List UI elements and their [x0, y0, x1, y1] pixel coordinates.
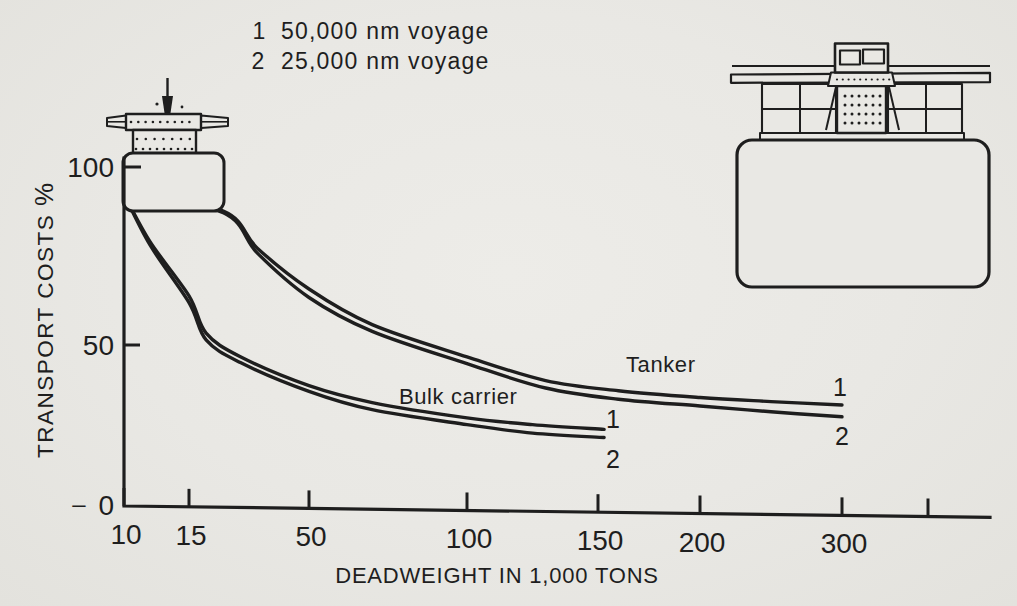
porthole-dot: [879, 104, 882, 107]
tanker-end-label-1: 1: [833, 373, 847, 401]
porthole-dot: [858, 95, 861, 98]
x-tick-label: 10: [110, 519, 141, 550]
porthole-dot: [162, 138, 165, 141]
porthole-dot: [865, 78, 867, 80]
x-tick-label: 300: [821, 528, 868, 559]
chart-canvas: 101550100150200300 100500 1 50,000 nm vo…: [0, 0, 1017, 606]
tanker-curve-label: Tanker: [626, 352, 696, 377]
porthole-dot: [844, 113, 847, 116]
porthole-dot: [171, 138, 174, 141]
porthole-dot: [149, 148, 152, 151]
large-ship-illustration: [731, 44, 990, 288]
x-tick-label: 200: [679, 527, 726, 558]
x-tick-label: 100: [446, 523, 493, 554]
porthole-dot: [851, 122, 854, 125]
porthole-dot: [159, 121, 162, 124]
large-ship-hull: [737, 140, 989, 287]
porthole-dot: [865, 95, 868, 98]
porthole-dot: [851, 104, 854, 107]
x-axis-ticks: 101550100150200300: [110, 488, 928, 559]
curve-bulk-50000nm: [124, 194, 604, 429]
porthole-dot: [142, 148, 145, 151]
porthole-dot: [879, 113, 882, 116]
porthole-dot: [865, 122, 868, 125]
porthole-dot: [844, 122, 847, 125]
porthole-dot: [888, 78, 890, 80]
porthole-dot: [156, 148, 159, 151]
small-ship-mast-dot-right: [181, 106, 184, 109]
small-ship-hull: [123, 153, 224, 211]
porthole-dot: [163, 148, 166, 151]
porthole-dot: [184, 148, 187, 151]
curve-tanker-25000nm: [124, 191, 842, 417]
porthole-dot: [144, 121, 147, 124]
y-tick-label: 0: [98, 490, 114, 521]
porthole-dot: [130, 121, 133, 124]
porthole-dot: [858, 104, 861, 107]
porthole-dot: [871, 78, 873, 80]
porthole-dot: [872, 113, 875, 116]
small-ship-mast-dot-left: [155, 102, 158, 105]
small-ship-superstructure: [133, 130, 196, 155]
porthole-dot: [853, 78, 855, 80]
porthole-dot: [191, 148, 194, 151]
porthole-dot: [879, 122, 882, 125]
bulk-carrier-curve-label: Bulk carrier: [399, 384, 517, 409]
large-ship-superstructure: [837, 86, 886, 133]
porthole-dot: [170, 148, 173, 151]
legend-item-2-marker: 2: [252, 48, 265, 74]
porthole-dot: [145, 138, 148, 141]
porthole-dot: [865, 113, 868, 116]
y-axis-title: TRANSPORT COSTS: [33, 214, 58, 458]
porthole-dot: [189, 138, 192, 141]
x-axis-title: DEADWEIGHT IN 1,000 TONS: [335, 563, 659, 588]
porthole-dot: [858, 122, 861, 125]
porthole-dot: [181, 121, 184, 124]
porthole-dot: [872, 95, 875, 98]
small-ship-mast-head: [162, 96, 173, 113]
porthole-dot: [135, 148, 138, 151]
porthole-dot: [872, 122, 875, 125]
porthole-dot: [872, 104, 875, 107]
y-axis-unit: %: [29, 183, 59, 206]
porthole-dot: [859, 78, 861, 80]
bulk-end-label-1: 1: [606, 405, 620, 433]
porthole-dot: [882, 78, 884, 80]
porthole-dot: [844, 95, 847, 98]
porthole-dot: [137, 121, 140, 124]
tanker-end-label-2: 2: [835, 422, 849, 450]
porthole-dot: [836, 78, 838, 80]
legend-item-1-marker: 1: [253, 18, 266, 44]
x-tick-label: 50: [295, 521, 326, 552]
porthole-dot: [153, 138, 156, 141]
x-tick-label: 150: [577, 525, 624, 556]
bulk-end-label-2: 2: [606, 445, 620, 473]
porthole-dot: [188, 121, 191, 124]
porthole-dot: [174, 121, 177, 124]
porthole-dot: [865, 104, 868, 107]
figure-page: 101550100150200300 100500 1 50,000 nm vo…: [0, 0, 1017, 606]
porthole-dot: [844, 104, 847, 107]
curve-tanker-50000nm: [124, 191, 842, 405]
porthole-dot: [152, 121, 155, 124]
legend-item-1-label: 50,000 nm voyage: [281, 18, 489, 44]
large-ship-bridge-window-right: [863, 50, 884, 64]
porthole-dot: [851, 113, 854, 116]
porthole-dot: [180, 138, 183, 141]
porthole-dot: [848, 78, 850, 80]
porthole-dot: [858, 113, 861, 116]
y-axis-zero-dash: –: [72, 490, 86, 517]
porthole-dot: [877, 78, 879, 80]
porthole-dot: [842, 78, 844, 80]
large-ship-bridge-window-left: [840, 51, 860, 65]
porthole-dot: [177, 148, 180, 151]
porthole-dot: [136, 138, 139, 141]
porthole-dot: [166, 121, 169, 124]
x-tick-label: 15: [175, 520, 206, 551]
y-tick-label: 50: [83, 330, 114, 361]
porthole-dot: [851, 95, 854, 98]
legend-item-2-label: 25,000 nm voyage: [281, 48, 489, 74]
porthole-dot: [879, 95, 882, 98]
y-tick-label: 100: [67, 152, 114, 183]
